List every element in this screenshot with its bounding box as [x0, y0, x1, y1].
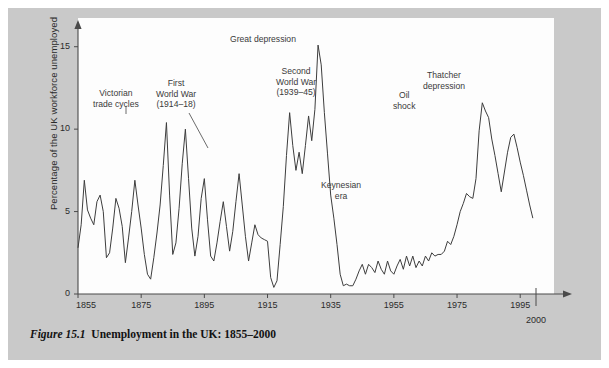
annotation-line: trade cycles	[93, 99, 139, 110]
annotation-great-depression: Great depression	[230, 34, 296, 45]
y-tick-label-15: 15	[48, 41, 70, 51]
x-tick-label-1875: 1875	[121, 300, 161, 310]
annotation-line: Keynesian	[321, 180, 361, 191]
x-tick-label-1995: 1995	[500, 300, 540, 310]
annotation-line: depression	[423, 81, 465, 92]
annotation-line: Great depression	[230, 34, 296, 45]
x-tick-label-1955: 1955	[374, 300, 414, 310]
x-tick-label-1935: 1935	[311, 300, 351, 310]
annotation-thatcher-depression: Thatcherdepression	[423, 70, 465, 91]
annotation-second-world-war: SecondWorld War(1939–45)	[276, 66, 316, 98]
y-axis-title: Percentage of the UK workforce unemploye…	[48, 0, 59, 239]
y-tick-label-0: 0	[48, 288, 70, 298]
annotation-keynesian-era: Keynesianera	[321, 180, 361, 201]
y-tick-label-5: 5	[48, 206, 70, 216]
annotation-line: Victorian	[93, 88, 139, 99]
y-tick-label-10: 10	[48, 123, 70, 133]
figure-caption-text: Unemployment in the UK: 1855–2000	[91, 328, 276, 340]
annotation-oil-shock: Oilshock	[393, 90, 415, 111]
figure-caption-number: Figure 15.1	[30, 328, 86, 340]
annotation-line: Oil	[393, 90, 415, 101]
x-end-label-2000: 2000	[516, 315, 556, 325]
annotation-line: (1914–18)	[156, 99, 196, 110]
figure-card: Percentage of the UK workforce unemploye…	[8, 8, 601, 360]
x-tick-label-1915: 1915	[248, 300, 288, 310]
annotation-line: Thatcher	[423, 70, 465, 81]
annotation-victorian-trade-cycles: Victoriantrade cycles	[93, 88, 139, 109]
figure-caption: Figure 15.1 Unemployment in the UK: 1855…	[30, 328, 276, 340]
annotation-line: (1939–45)	[276, 87, 316, 98]
figure-root: Percentage of the UK workforce unemploye…	[0, 0, 609, 368]
annotation-line: World War	[156, 89, 196, 100]
annotation-first-world-war: FirstWorld War(1914–18)	[156, 78, 196, 110]
annotation-line: World War	[276, 77, 316, 88]
x-tick-label-1895: 1895	[184, 300, 224, 310]
annotation-line: shock	[393, 101, 415, 112]
x-tick-label-1975: 1975	[437, 300, 477, 310]
x-tick-label-1855: 1855	[76, 300, 116, 310]
annotation-line: First	[156, 78, 196, 89]
chart-axes	[74, 20, 572, 306]
annotation-line: era	[321, 191, 361, 202]
annotation-line: Second	[276, 66, 316, 77]
